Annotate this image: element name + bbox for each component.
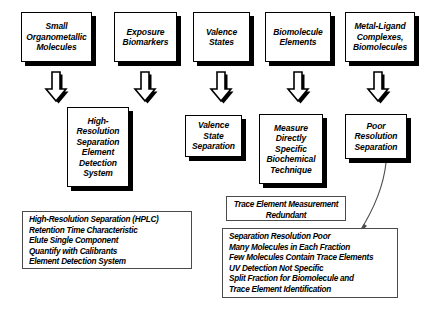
node-label: ValenceStates (196, 27, 247, 48)
node-exposure-biomarkers[interactable]: ExposureBiomarkers (114, 12, 177, 62)
note-line: UV Detection Not Specific (229, 264, 392, 275)
arrow-down-biomolecule-elements (287, 70, 309, 104)
note-poor-resolution: Separation Resolution Poor Many Molecule… (222, 228, 398, 298)
note-line: Few Molecules Contain Trace Elements (229, 253, 392, 264)
arrow-down-exposure-biomarkers (134, 70, 156, 104)
arrow-down-valence-states (210, 70, 232, 104)
node-valence-states[interactable]: ValenceStates (193, 12, 250, 62)
node-high-resolution-separation-system[interactable]: High-ResolutionSeparationElementDetectio… (67, 107, 129, 187)
node-label: High-ResolutionSeparationElementDetectio… (70, 116, 126, 179)
note-line: High-Resolution Separation (HPLC) (29, 215, 186, 226)
note-line: Element Detection System (29, 257, 186, 268)
node-biomolecule-elements[interactable]: BiomoleculeElements (265, 12, 331, 62)
node-label: Metal-LigandComplexes,Biomolecules (348, 21, 412, 53)
node-small-organometallic-molecules[interactable]: SmallOrganometallicMolecules (21, 12, 92, 62)
node-metal-ligand-complexes[interactable]: Metal-LigandComplexes,Biomolecules (345, 12, 415, 62)
note-line: Separation Resolution Poor (229, 232, 392, 243)
arrow-down-small-organometallic (45, 70, 67, 104)
note-line: Trace Element Identification (229, 285, 392, 296)
note-hplc: High-Resolution Separation (HPLC) Retent… (22, 211, 192, 269)
note-line: Many Molecules in Each Fraction (229, 243, 392, 254)
node-label: MeasureDirectlySpecificBiochemicalTechni… (262, 123, 320, 176)
node-label: ValenceStateSeparation (188, 120, 239, 152)
note-line: Elute Single Component (29, 236, 186, 247)
arrow-down-metal-ligand-complexes (367, 70, 389, 104)
note-line: Trace Element Measurement (231, 200, 341, 211)
note-line: Retention Time Characteristic (29, 226, 186, 237)
node-measure-directly-specific-biochemical-technique[interactable]: MeasureDirectlySpecificBiochemicalTechni… (259, 114, 323, 184)
note-trace-element-redundant: Trace Element Measurement Redundant (226, 196, 346, 221)
note-line: Split Fraction for Biomolecule and (229, 274, 392, 285)
flowchart-diagram: SmallOrganometallicMolecules ExposureBio… (0, 0, 422, 310)
note-line: Quantify with Calibrants (29, 247, 186, 258)
node-label: BiomoleculeElements (268, 27, 328, 48)
note-line: Redundant (231, 211, 341, 222)
node-label: SmallOrganometallicMolecules (24, 21, 89, 53)
node-valence-state-separation[interactable]: ValenceStateSeparation (185, 115, 242, 157)
node-label: ExposureBiomarkers (117, 27, 174, 48)
node-poor-resolution-separation[interactable]: PoorResolutionSeparation (345, 114, 407, 159)
node-label: PoorResolutionSeparation (348, 121, 404, 153)
